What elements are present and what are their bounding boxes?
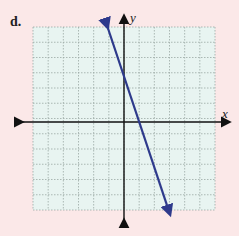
y-axis-label: y xyxy=(128,10,136,25)
x-axis-label: x xyxy=(221,106,228,121)
coordinate-plane: x y xyxy=(0,0,239,236)
